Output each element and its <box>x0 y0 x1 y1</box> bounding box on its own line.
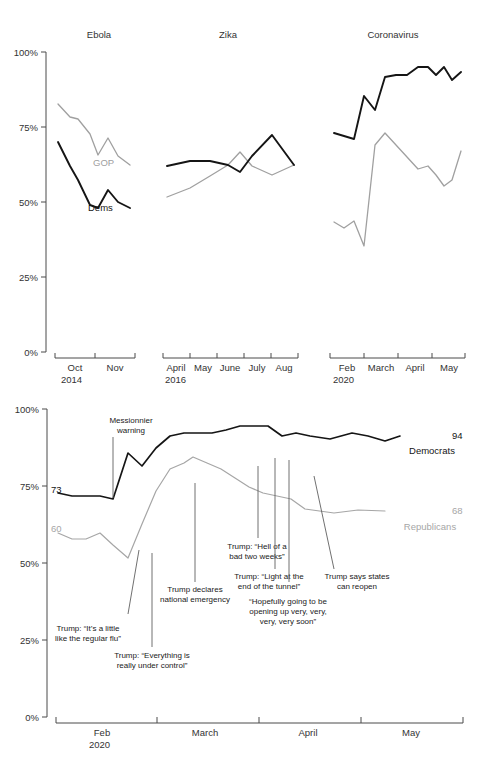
democrats-series-label: Democrats <box>409 445 455 456</box>
corona-xlabel-april: April <box>405 362 424 373</box>
corona-xlabel-march: March <box>368 362 394 373</box>
annotation-leader-2 <box>128 550 139 614</box>
coronavirus-timeline-chart: 100% 75% 50% 25% 0% 73 60 94 68 Democrat… <box>0 392 491 769</box>
annotation-5-line1: Trump: “Hell of a <box>227 542 287 551</box>
bottom-xlabel-may: May <box>402 727 420 738</box>
republicans-series-label: Republicans <box>404 521 457 532</box>
panel-title-coronavirus: Coronavirus <box>367 29 418 40</box>
corona-xlabel-feb: Feb <box>339 362 355 373</box>
zika-xlabel-year: 2016 <box>165 374 186 385</box>
annotation-1-line1: Messionnier <box>109 416 152 425</box>
annotation-1-line2: warning <box>116 426 145 435</box>
bottom-xlabel-feb: Feb <box>94 727 110 738</box>
annotation-8-line2: can reopen <box>337 582 377 591</box>
bottom-xlabel-march: March <box>192 727 218 738</box>
annotation-7-line3: very, very soon” <box>260 617 317 626</box>
annotation-6-line1: Trump: “Light at the <box>234 572 304 581</box>
top-chart-svg: 100% 75% 50% 25% 0% Ebola GOP Dems Oct N… <box>0 0 491 392</box>
bottom-chart-svg: 100% 75% 50% 25% 0% 73 60 94 68 Democrat… <box>0 392 491 769</box>
annotation-leader-8 <box>314 476 334 569</box>
zika-xlabel-may: May <box>194 362 212 373</box>
annotation-2-line1: Trump: “It’s a little <box>56 624 120 633</box>
ebola-dem-label: Dems <box>88 202 113 213</box>
dem-end-value: 94 <box>452 430 463 441</box>
panel-title-ebola: Ebola <box>87 29 112 40</box>
ebola-gop-line <box>58 104 130 165</box>
corona-dem-line <box>334 67 461 139</box>
ebola-xlabel-nov: Nov <box>107 362 124 373</box>
bottom-xlabel-year: 2020 <box>89 739 110 750</box>
dem-start-value: 73 <box>51 484 62 495</box>
annotation-7-line2: opening up very, very, <box>249 607 327 616</box>
gop-start-value: 60 <box>51 523 62 534</box>
zika-xlabel-july: July <box>249 362 266 373</box>
zika-xlabel-april: April <box>166 362 185 373</box>
corona-gop-line <box>334 133 461 246</box>
top-ytick-label-75: 75% <box>19 122 39 133</box>
zika-gop-line <box>167 152 294 197</box>
annotation-2-line2: like the regular flu” <box>55 634 121 643</box>
bottom-ytick-label-0: 0% <box>25 712 39 723</box>
bottom-ytick-label-50: 50% <box>20 558 40 569</box>
top-ytick-label-100: 100% <box>14 47 39 58</box>
ebola-gop-label: GOP <box>93 157 114 168</box>
gop-end-value: 68 <box>452 505 463 516</box>
corona-xlabel-may: May <box>440 362 458 373</box>
annotation-8-line1: Trump says states <box>324 572 389 581</box>
zika-dem-line <box>167 135 294 172</box>
annotation-7-line1: “Hopefully going to be <box>249 597 327 606</box>
bottom-ytick-label-25: 25% <box>20 635 40 646</box>
top-ytick-label-25: 25% <box>19 272 39 283</box>
zika-xlabel-aug: Aug <box>276 362 293 373</box>
panel-title-zika: Zika <box>219 29 238 40</box>
top-ytick-label-50: 50% <box>19 197 39 208</box>
annotation-5-line2: bad two weeks” <box>229 552 285 561</box>
annotation-4-line1: Trump declares <box>167 585 222 594</box>
corona-xlabel-year: 2020 <box>333 374 354 385</box>
ebola-dem-line <box>58 142 130 208</box>
ebola-xlabel-oct: Oct <box>68 362 83 373</box>
ebola-xlabel-year: 2014 <box>61 374 82 385</box>
bottom-xlabel-april: April <box>298 727 317 738</box>
annotation-3-line2: really under control” <box>117 661 188 670</box>
annotation-3-line1: Trump: “Everything is <box>114 651 190 660</box>
annotation-6-line2: end of the tunnel” <box>238 582 301 591</box>
annotation-4-line2: national emergency <box>160 595 230 604</box>
top-ytick-label-0: 0% <box>24 347 38 358</box>
zika-xlabel-june: June <box>220 362 241 373</box>
democrats-line <box>58 426 400 499</box>
outbreak-comparison-chart: 100% 75% 50% 25% 0% Ebola GOP Dems Oct N… <box>0 0 491 392</box>
bottom-ytick-label-75: 75% <box>20 481 40 492</box>
bottom-ytick-label-100: 100% <box>15 404 40 415</box>
republicans-line <box>58 457 385 558</box>
